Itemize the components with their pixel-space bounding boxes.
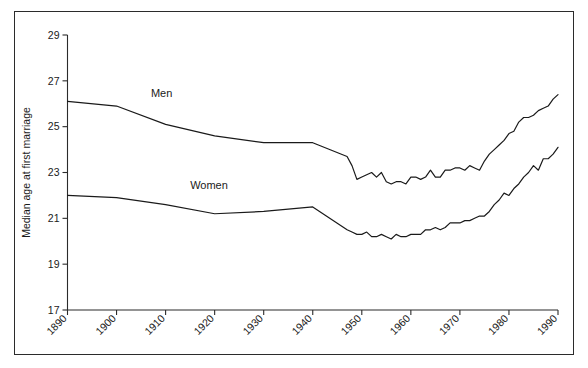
x-tick-label: 1920 <box>191 312 216 337</box>
y-tick-label: 29 <box>48 29 60 41</box>
x-tick-label: 1930 <box>240 312 265 337</box>
series-label-women: Women <box>190 179 228 191</box>
y-tick-label: 23 <box>48 166 60 178</box>
series-line-men <box>68 95 559 184</box>
x-tick-label: 1900 <box>93 312 118 337</box>
x-tick-label: 1960 <box>387 312 412 337</box>
y-tick-label: 27 <box>48 75 60 87</box>
x-tick-label: 1990 <box>534 312 559 337</box>
x-tick-label: 1970 <box>436 312 461 337</box>
y-tick-label: 25 <box>48 120 60 132</box>
x-tick-label: 1940 <box>289 312 314 337</box>
figure-container: 1719212325272918901900191019201930194019… <box>0 0 588 368</box>
x-tick-label: 1950 <box>338 312 363 337</box>
series-label-men: Men <box>151 87 172 99</box>
y-tick-label: 21 <box>48 212 60 224</box>
y-axis-title: Median age at first marriage <box>20 107 32 238</box>
x-tick-label: 1980 <box>485 312 510 337</box>
y-tick-label: 19 <box>48 258 60 270</box>
line-chart: 1719212325272918901900191019201930194019… <box>0 0 588 368</box>
axis-spines <box>68 35 559 310</box>
x-tick-label: 1910 <box>142 312 167 337</box>
